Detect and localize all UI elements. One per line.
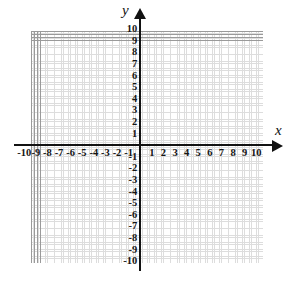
x-tick-label: 2	[161, 148, 166, 158]
x-tick-label: 5	[196, 148, 201, 158]
y-tick-label: -2	[0, 163, 137, 173]
y-tick-label: -8	[0, 233, 137, 243]
x-tick-label: 9	[242, 148, 247, 158]
y-axis-line	[139, 16, 141, 271]
y-axis-arrowhead-icon	[134, 8, 146, 19]
y-tick-label: -7	[0, 221, 137, 231]
y-tick-label: -4	[0, 187, 137, 197]
y-axis-label: y	[122, 2, 129, 19]
y-tick-label: 8	[0, 47, 137, 57]
x-axis-arrowhead-icon	[272, 140, 283, 152]
x-tick-label: 10	[251, 148, 262, 158]
x-tick-label: 6	[207, 148, 212, 158]
y-tick-label: 10	[0, 24, 137, 34]
y-tick-label: 1	[0, 129, 137, 139]
y-tick-label: 4	[0, 94, 137, 104]
y-tick-label: 5	[0, 82, 137, 92]
y-tick-label: -3	[0, 175, 137, 185]
y-tick-label: 3	[0, 105, 137, 115]
x-tick-label: 3	[172, 148, 177, 158]
y-tick-label: -10	[0, 256, 137, 266]
x-tick-label: 7	[219, 148, 224, 158]
y-tick-label: 6	[0, 71, 137, 81]
y-tick-label: 9	[0, 36, 137, 46]
x-tick-label: 8	[230, 148, 235, 158]
x-tick-label: 4	[184, 148, 189, 158]
x-axis-line	[14, 144, 276, 146]
y-tick-label: -6	[0, 210, 137, 220]
x-axis-label: x	[275, 122, 282, 139]
y-tick-label: -1	[0, 152, 137, 162]
y-tick-label: -9	[0, 245, 137, 255]
y-tick-label: 7	[0, 59, 137, 69]
coordinate-plane: y x -10-9-8-7-6-5-4-3-2-112345678910 109…	[0, 0, 294, 285]
y-tick-label: -5	[0, 198, 137, 208]
x-tick-label: 1	[149, 148, 154, 158]
y-tick-label: 2	[0, 117, 137, 127]
